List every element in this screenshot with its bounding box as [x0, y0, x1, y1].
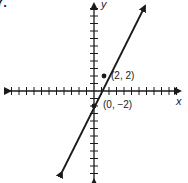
point-label-2-2: (2, 2): [111, 70, 134, 81]
point-2-2: [102, 74, 107, 79]
point-0-neg2: [92, 104, 97, 109]
x-axis: [10, 87, 180, 95]
y-axis-label: y: [101, 0, 107, 10]
coordinate-graph: [0, 0, 188, 183]
y-axis: [90, 4, 98, 180]
graphed-line: [62, 6, 145, 172]
x-axis-label: x: [176, 95, 182, 107]
point-label-0-neg2: (0, −2): [103, 99, 132, 110]
